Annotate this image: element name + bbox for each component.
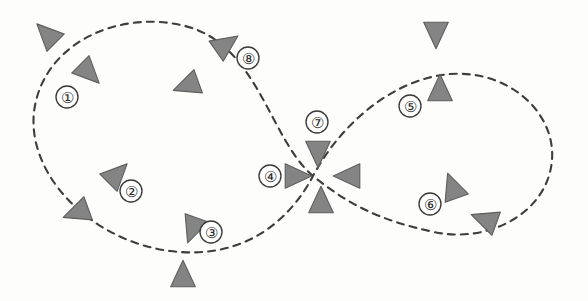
agent-markers-layer xyxy=(28,15,500,287)
waypoint-7-label: ⑦ xyxy=(311,115,324,131)
agent-cross-east xyxy=(333,164,360,189)
agent-top-left-outer xyxy=(28,15,64,51)
agent-waypoint-5 xyxy=(428,74,453,101)
figure-canvas: ①②③④⑤⑥⑦⑧ xyxy=(0,0,588,301)
waypoint-4: ④ xyxy=(259,165,281,187)
agent-waypoint-1-inner xyxy=(72,56,108,92)
trajectory-figure: ①②③④⑤⑥⑦⑧ xyxy=(0,0,588,301)
agent-top-right-outer xyxy=(424,22,449,49)
waypoint-2: ② xyxy=(120,180,142,202)
waypoint-7: ⑦ xyxy=(306,111,328,133)
waypoint-1-label: ① xyxy=(61,90,74,106)
waypoint-6-label: ⑥ xyxy=(424,197,437,213)
waypoint-5: ⑤ xyxy=(399,95,421,117)
waypoint-5-label: ⑤ xyxy=(404,99,417,115)
agent-bottom-outer xyxy=(171,260,196,287)
agent-waypoint-6-lower xyxy=(467,203,500,235)
agent-waypoint-6-upper xyxy=(436,169,468,202)
waypoint-8: ⑧ xyxy=(237,47,259,69)
agent-left-outer-mid xyxy=(59,197,92,229)
agent-upper-mid-left xyxy=(169,70,202,102)
waypoint-2-label: ② xyxy=(125,184,138,200)
waypoint-1: ① xyxy=(56,86,78,108)
agent-cross-south xyxy=(309,186,334,213)
waypoint-8-label: ⑧ xyxy=(242,51,255,67)
waypoint-3-label: ③ xyxy=(205,225,218,241)
waypoint-4-label: ④ xyxy=(264,169,277,185)
waypoint-6: ⑥ xyxy=(419,193,441,215)
waypoint-3: ③ xyxy=(200,221,222,243)
